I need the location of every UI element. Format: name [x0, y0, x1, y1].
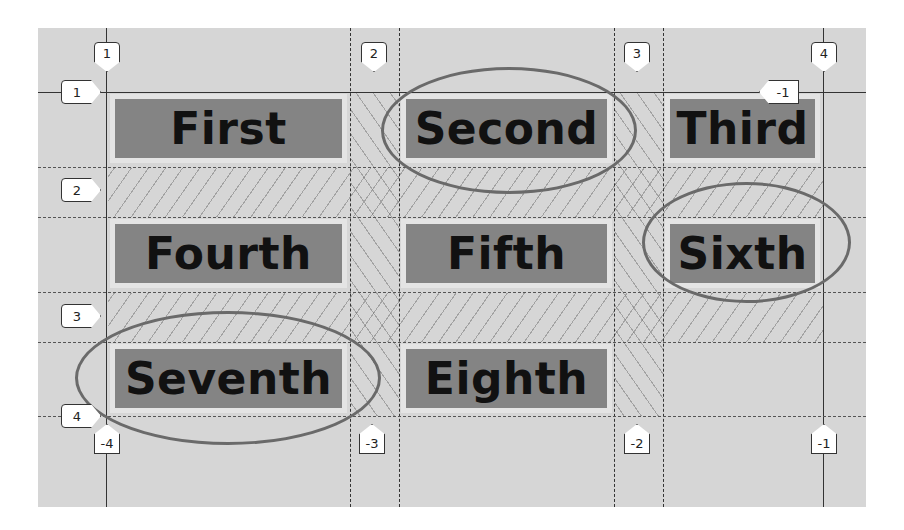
column-line-2-start: [350, 28, 351, 507]
grid-item-fifth: Fifth: [406, 224, 607, 283]
row-line-3-start: [38, 292, 866, 293]
column-line-2-end: [399, 28, 400, 507]
row-gap-1: [108, 168, 824, 217]
grid-item-third: Third: [670, 99, 815, 158]
row-line-2-end: [38, 217, 866, 218]
row-line-1: [38, 92, 866, 93]
grid-item-fourth: Fourth: [115, 224, 342, 283]
grid-item-sixth: Sixth: [670, 224, 815, 283]
row-gap-2: [108, 293, 824, 342]
column-gap-2: [615, 93, 663, 416]
grid-item-eighth: Eighth: [406, 349, 607, 408]
grid-item-second: Second: [406, 99, 607, 158]
column-line-3-end: [663, 28, 664, 507]
column-gap-1: [351, 93, 399, 416]
row-line-3-end: [38, 342, 866, 343]
row-line-2-start: [38, 167, 866, 168]
grid-item-first: First: [115, 99, 342, 158]
grid-item-seventh: Seventh: [115, 349, 342, 408]
column-line-3-start: [614, 28, 615, 507]
row-line-4: [38, 416, 866, 417]
